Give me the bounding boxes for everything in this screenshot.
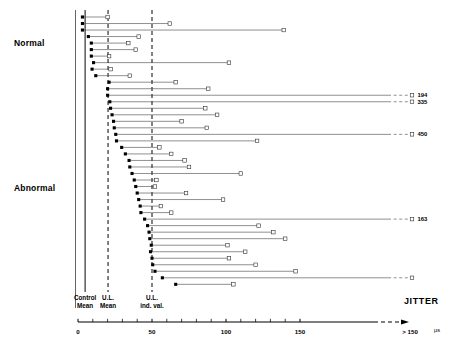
reference-caption-ul-ind-val-2: ind. val. bbox=[140, 302, 164, 309]
axis-overflow-label: > 150 bbox=[402, 328, 418, 335]
reference-caption-ul-ind-val: U.L. bbox=[146, 294, 158, 301]
max-marker bbox=[187, 165, 191, 169]
axis-tick-label: 0 bbox=[76, 328, 80, 335]
reference-caption-control-mean: Control bbox=[74, 294, 97, 301]
max-marker bbox=[257, 224, 261, 228]
max-marker bbox=[174, 80, 178, 84]
mean-marker bbox=[146, 224, 149, 227]
max-marker bbox=[180, 120, 184, 124]
max-value-label: 194 bbox=[418, 92, 429, 98]
mean-marker bbox=[139, 211, 142, 214]
max-marker bbox=[127, 41, 131, 45]
mean-marker bbox=[106, 87, 109, 90]
max-marker bbox=[232, 283, 236, 287]
max-marker bbox=[254, 263, 258, 267]
max-marker bbox=[204, 107, 208, 111]
max-marker bbox=[158, 146, 162, 150]
max-marker bbox=[205, 126, 209, 130]
mean-marker bbox=[136, 191, 139, 194]
max-marker bbox=[155, 178, 159, 182]
max-marker bbox=[109, 67, 113, 71]
mean-marker bbox=[149, 250, 152, 253]
max-marker bbox=[410, 100, 414, 104]
axis-tick-label: 50 bbox=[149, 328, 156, 335]
max-marker bbox=[410, 133, 414, 137]
mean-marker bbox=[137, 198, 140, 201]
axis-tick-label: 100 bbox=[221, 328, 232, 335]
max-marker bbox=[169, 152, 173, 156]
mean-marker bbox=[150, 257, 153, 260]
mean-marker bbox=[134, 185, 137, 188]
mean-marker bbox=[150, 244, 153, 247]
max-marker bbox=[410, 217, 414, 221]
max-marker bbox=[410, 93, 414, 97]
max-value-label: 450 bbox=[418, 131, 429, 137]
mean-marker bbox=[112, 120, 115, 123]
mean-marker bbox=[108, 100, 111, 103]
max-marker bbox=[206, 87, 210, 91]
max-marker bbox=[137, 35, 141, 39]
max-marker bbox=[227, 61, 231, 65]
mean-marker bbox=[130, 172, 133, 175]
max-marker bbox=[106, 15, 110, 19]
axis-title: JITTER bbox=[404, 296, 439, 306]
max-marker bbox=[134, 48, 138, 52]
mean-marker bbox=[115, 139, 118, 142]
mean-marker bbox=[108, 81, 111, 84]
mean-marker bbox=[147, 231, 150, 234]
mean-marker bbox=[81, 28, 84, 31]
mean-marker bbox=[174, 283, 177, 286]
mean-marker bbox=[91, 68, 94, 71]
mean-marker bbox=[92, 61, 95, 64]
max-marker bbox=[255, 139, 259, 143]
mean-marker bbox=[109, 107, 112, 110]
group-label-normal: Normal bbox=[14, 38, 45, 48]
axis-arrow bbox=[401, 319, 409, 324]
max-marker bbox=[227, 256, 231, 260]
axis-tick-label: 150 bbox=[295, 328, 306, 335]
max-marker bbox=[294, 270, 298, 274]
mean-marker bbox=[87, 35, 90, 38]
max-marker bbox=[239, 172, 243, 176]
mean-marker bbox=[153, 270, 156, 273]
mean-marker bbox=[113, 126, 116, 129]
mean-marker bbox=[106, 94, 109, 97]
mean-marker bbox=[90, 55, 93, 58]
reference-caption-ul-mean-2: Mean bbox=[100, 302, 116, 309]
max-marker bbox=[107, 54, 111, 58]
max-marker bbox=[221, 198, 225, 202]
max-marker bbox=[153, 185, 157, 189]
max-marker bbox=[159, 204, 163, 208]
max-marker bbox=[410, 276, 414, 280]
max-marker bbox=[169, 211, 173, 215]
mean-marker bbox=[151, 263, 154, 266]
max-marker bbox=[183, 159, 187, 163]
max-marker bbox=[272, 230, 276, 234]
max-value-label: 163 bbox=[418, 216, 429, 222]
max-marker bbox=[168, 22, 172, 26]
jitter-chart: 194335450163050100150> 150ControlMeanU.L… bbox=[0, 0, 454, 345]
mean-marker bbox=[143, 218, 146, 221]
mean-marker bbox=[161, 276, 164, 279]
mean-marker bbox=[81, 15, 84, 18]
mean-marker bbox=[120, 146, 123, 149]
max-marker bbox=[282, 28, 286, 32]
mean-marker bbox=[94, 74, 97, 77]
mean-marker bbox=[139, 205, 142, 208]
max-marker bbox=[243, 250, 247, 254]
mean-marker bbox=[90, 42, 93, 45]
group-label-abnormal: Abnormal bbox=[14, 183, 55, 193]
mean-marker bbox=[90, 48, 93, 51]
mean-marker bbox=[124, 152, 127, 155]
mean-marker bbox=[81, 22, 84, 25]
mean-marker bbox=[114, 133, 117, 136]
mean-marker bbox=[133, 178, 136, 181]
max-value-label: 335 bbox=[418, 99, 429, 105]
max-marker bbox=[215, 113, 219, 117]
mean-marker bbox=[128, 165, 131, 168]
max-marker bbox=[128, 74, 132, 78]
max-marker bbox=[226, 243, 230, 247]
max-marker bbox=[184, 191, 188, 195]
reference-caption-control-mean-2: Mean bbox=[77, 302, 93, 309]
mean-marker bbox=[110, 113, 113, 116]
